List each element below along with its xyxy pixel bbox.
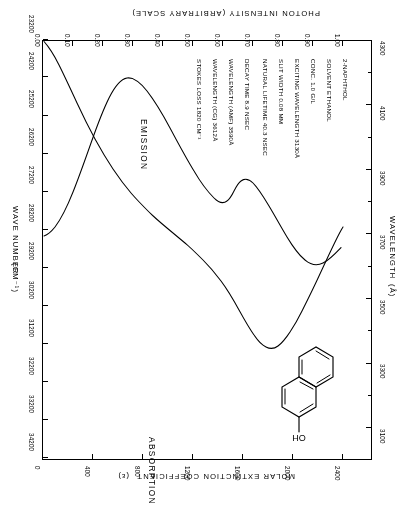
intensity-tick-label: 0.50 [184,34,191,47]
extinction-tick [342,454,343,459]
wavenumber-tick-label: 29200 [28,243,35,261]
wavenumber-tick [43,40,48,41]
wavelength-tick-label: 3900 [379,171,386,186]
annotation-line-5: NATURAL LIFETIME 40.3 NSEC [262,59,269,156]
wavenumber-tick-label: 28200 [28,204,35,222]
intensity-tick-label: 0.10 [64,34,71,47]
wavelength-tick-minor [368,266,371,267]
wavelength-axis-title: WAVELENGTH [388,216,397,279]
wavenumber-tick [43,77,48,78]
wavelength-tick-label: 4100 [379,106,386,121]
wavenumber-tick [43,305,48,306]
extinction-tick [242,454,243,459]
intensity-tick-label: 0.40 [154,34,161,47]
intensity-tick-label: 0.30 [124,34,131,47]
intensity-tick [192,41,193,46]
wavelength-tick-minor [368,137,371,138]
wavelength-tick-minor [368,395,371,396]
wavenumber-tick-label: 24200 [28,52,35,70]
intensity-tick-label: 0.20 [94,34,101,47]
annotation-line-2: CONC. 1.0 G/L [310,59,317,104]
wavenumber-tick [43,343,48,344]
wavelength-tick [366,427,371,428]
wavenumber-axis-unit: (CM⁻¹) [11,263,20,293]
annotation-line-6: DECAY TIME 8.9 NSEC [244,59,251,130]
intensity-tick-label: 0.80 [274,34,281,47]
wavenumber-tick [43,419,48,420]
wavenumber-tick-label: 26200 [28,128,35,146]
wavenumber-tick-label: 31200 [28,319,35,337]
wavelength-tick-label: 3500 [379,300,386,315]
wavenumber-tick-label: 30200 [28,281,35,299]
wavelength-axis-unit: (Å) [388,284,397,297]
wavelength-tick-label: 4300 [379,41,386,56]
extinction-tick [292,454,293,459]
wavelength-tick [366,104,371,105]
wavenumber-tick-label: 25200 [28,90,35,108]
wavelength-tick [366,169,371,170]
wavelength-tick [366,40,371,41]
extinction-tick [192,454,193,459]
intensity-tick-label: 0.70 [244,34,251,47]
intensity-tick [162,41,163,46]
extinction-tick [142,454,143,459]
wavelength-tick-label: 3700 [379,235,386,250]
annotation-line-8: WAVELENGTH (CG) 3612Å [212,59,219,142]
intensity-tick-label: 0.90 [304,34,311,47]
intensity-tick [222,41,223,46]
intensity-tick [132,41,133,46]
wavenumber-tick [43,229,48,230]
extinction-tick-label: 400 [84,466,91,477]
wavelength-tick [366,233,371,234]
annotation-line-0: 2-NAPHTHOL [342,59,349,101]
annotation-line-7: WAVELENGTH (AMF) 3590Å [228,59,235,146]
wavelength-tick-label: 3100 [379,429,386,444]
intensity-tick [252,41,253,46]
hydroxyl-label: OH [292,433,306,443]
absorption-label: ABSORPTION [147,437,157,505]
wavenumber-tick-label: 23200 [28,15,35,33]
emission-label: EMISSION [139,119,149,170]
wavenumber-tick [43,191,48,192]
wavelength-tick-minor [368,72,371,73]
extinction-tick [92,454,93,459]
annotation-line-3: EXCITING WAVELENGTH 3130Å [294,59,301,158]
wavenumber-tick [43,153,48,154]
extinction-axis-title: MOLAR EXTINCTION COEFFICIENT [136,472,295,481]
intensity-tick [342,41,343,46]
wavenumber-tick-label: 32200 [28,357,35,375]
wavenumber-tick-label: 27200 [28,166,35,184]
2-naphthol-structure: OH [256,333,346,443]
wavenumber-tick [43,381,48,382]
wavelength-tick [366,298,371,299]
annotation-line-4: SLIT WIDTH 0.08 MM [278,59,285,124]
intensity-axis-title: PHOTON INTENSITY (ARBITRARY SCALE) [131,9,320,18]
intensity-tick [282,41,283,46]
extinction-tick-label: 2400 [334,466,341,481]
intensity-tick-label: 1.00 [334,34,341,47]
wavenumber-tick-label: 33200 [28,395,35,413]
wavelength-tick [366,363,371,364]
wavenumber-tick-label: 34200 [28,433,35,451]
extinction-axis-unit: (ε) [117,472,129,481]
wavenumber-tick [43,458,48,459]
wavelength-tick-minor [368,201,371,202]
extinction-tick [42,454,43,459]
intensity-tick [102,41,103,46]
annotation-line-9: STOKES LOSS 1820 CM⁻¹ [196,59,203,140]
spectrum-figure: OH ABSORPTION EMISSION 2-NAPHTHOL SOLVEN… [0,0,416,506]
wavelength-tick-label: 3300 [379,364,386,379]
intensity-tick [42,41,43,46]
annotation-line-1: SOLVENT ETHANOL [326,59,333,122]
wavenumber-tick [43,267,48,268]
wavenumber-tick [43,115,48,116]
extinction-tick-label: 0 [34,466,41,470]
wavelength-tick-minor [368,330,371,331]
intensity-tick-label: 0.60 [214,34,221,47]
plot-area: OH ABSORPTION EMISSION 2-NAPHTHOL SOLVEN… [42,40,372,460]
intensity-tick [312,41,313,46]
intensity-tick [72,41,73,46]
intensity-tick-label: 0.00 [34,34,41,47]
